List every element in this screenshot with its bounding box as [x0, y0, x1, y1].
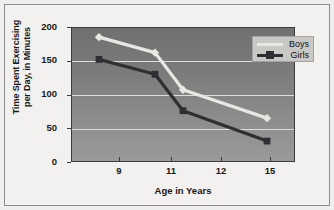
boys-point-15	[263, 114, 271, 122]
x-tick-mark-11	[171, 157, 172, 162]
y-tick-mark-0	[67, 162, 71, 163]
y-tick-label-50: 50	[27, 123, 57, 133]
legend-swatch-boys	[257, 43, 283, 46]
y-tick-label-150: 150	[27, 55, 57, 65]
chart-screenshot: Time Spent Exercising per Day, in Minute…	[0, 0, 334, 210]
boys-point-9	[95, 33, 103, 41]
girls-point-9	[96, 56, 103, 63]
girls-point-12	[180, 107, 187, 114]
legend-label-girls: Girls	[291, 49, 310, 61]
x-tick-label-15: 15	[258, 165, 282, 176]
figure-frame: Time Spent Exercising per Day, in Minute…	[4, 4, 330, 206]
boys-line	[99, 37, 267, 118]
x-tick-mark-15	[270, 157, 271, 162]
girls-line	[99, 59, 267, 141]
x-tick-label-9: 9	[107, 165, 131, 176]
girls-point-15	[264, 138, 271, 145]
x-tick-label-11: 11	[159, 165, 183, 176]
legend-item-girls: Girls	[253, 49, 313, 61]
y-tick-label-0: 0	[27, 157, 57, 167]
chart-legend: Boys Girls	[252, 36, 314, 62]
girls-point-11	[152, 71, 159, 78]
y-tick-label-200: 200	[27, 22, 57, 32]
y-tick-label-100: 100	[27, 89, 57, 99]
y-axis-title-line-1: Time Spent Exercising	[11, 7, 22, 127]
legend-marker-girls	[266, 51, 274, 59]
x-tick-mark-9	[119, 157, 120, 162]
series-girls	[96, 56, 271, 144]
x-axis-title: Age in Years	[71, 185, 295, 196]
x-tick-mark-12	[221, 157, 222, 162]
x-tick-label-12: 12	[209, 165, 233, 176]
